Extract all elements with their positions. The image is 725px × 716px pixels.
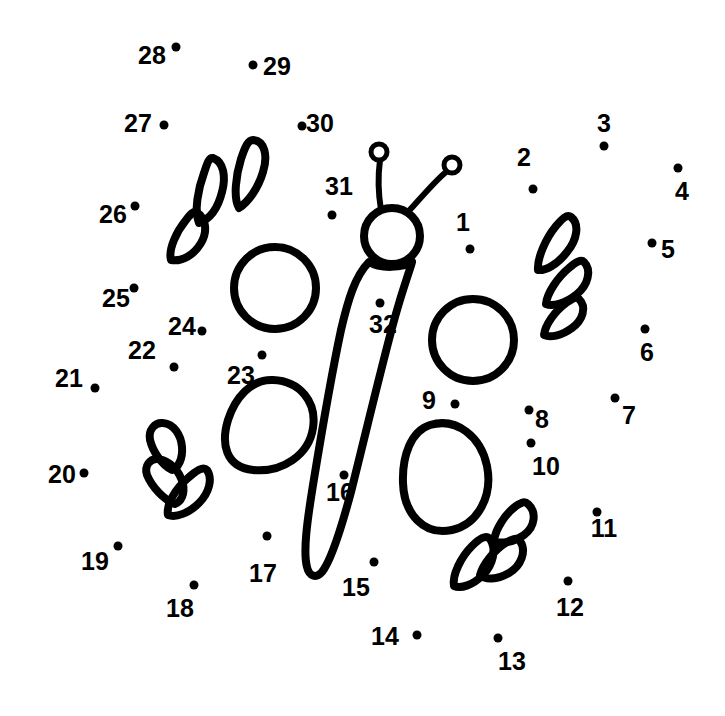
dot-label-4: 4 bbox=[675, 179, 689, 204]
dot-label-22: 22 bbox=[128, 338, 156, 363]
dot-27[interactable] bbox=[160, 121, 169, 130]
dot-label-6: 6 bbox=[640, 340, 654, 365]
dot-label-5: 5 bbox=[661, 237, 675, 262]
dot-6[interactable] bbox=[641, 325, 650, 334]
dot-26[interactable] bbox=[131, 202, 140, 211]
dot-15[interactable] bbox=[370, 558, 379, 567]
dot-18[interactable] bbox=[190, 581, 199, 590]
dot-label-20: 20 bbox=[48, 462, 76, 487]
dot-label-25: 25 bbox=[102, 286, 130, 311]
dot-3[interactable] bbox=[600, 142, 609, 151]
dot-label-13: 13 bbox=[498, 649, 526, 674]
dot-label-1: 1 bbox=[456, 210, 470, 235]
butterfly-artwork bbox=[0, 0, 725, 716]
dot-label-15: 15 bbox=[342, 575, 370, 600]
dot-12[interactable] bbox=[564, 577, 573, 586]
dot-label-31: 31 bbox=[325, 174, 353, 199]
dot-label-32: 32 bbox=[369, 312, 397, 337]
dot-7[interactable] bbox=[611, 394, 620, 403]
dot-2[interactable] bbox=[529, 185, 538, 194]
dot-label-16: 16 bbox=[326, 480, 354, 505]
upper-left-petal-3 bbox=[170, 212, 205, 260]
dot-label-17: 17 bbox=[249, 561, 277, 586]
left-antenna-tip-icon bbox=[371, 144, 387, 160]
dot-25[interactable] bbox=[130, 284, 139, 293]
dot-4[interactable] bbox=[674, 164, 683, 173]
dot-32[interactable] bbox=[376, 299, 385, 308]
butterfly-head bbox=[364, 208, 420, 264]
dot-label-11: 11 bbox=[591, 516, 617, 541]
dot-21[interactable] bbox=[91, 384, 100, 393]
dot-28[interactable] bbox=[172, 43, 181, 52]
right-antenna-tip-icon bbox=[444, 157, 460, 173]
upper-left-petal-1 bbox=[236, 140, 266, 208]
dot-1[interactable] bbox=[466, 245, 475, 254]
dot-label-2: 2 bbox=[517, 145, 531, 170]
dot-19[interactable] bbox=[114, 542, 123, 551]
lower-right-oval-wing bbox=[403, 423, 488, 531]
dot-label-29: 29 bbox=[263, 54, 291, 79]
dot-label-30: 30 bbox=[306, 111, 334, 136]
dot-label-7: 7 bbox=[622, 403, 636, 428]
dot-29[interactable] bbox=[249, 61, 258, 70]
dot-13[interactable] bbox=[494, 634, 503, 643]
dot-label-28: 28 bbox=[138, 43, 166, 68]
dot-8[interactable] bbox=[525, 406, 534, 415]
dot-14[interactable] bbox=[413, 631, 422, 640]
dot-label-18: 18 bbox=[166, 596, 194, 621]
puzzle-canvas: 1234567891011121314151617181920212223242… bbox=[0, 0, 725, 716]
upper-left-circle-wing bbox=[234, 247, 316, 329]
dot-label-8: 8 bbox=[535, 407, 549, 432]
dot-31[interactable] bbox=[328, 211, 337, 220]
dot-17[interactable] bbox=[263, 532, 272, 541]
dot-label-27: 27 bbox=[124, 111, 152, 136]
dot-label-19: 19 bbox=[81, 549, 109, 574]
right-antenna bbox=[408, 172, 446, 212]
lower-left-petal-3 bbox=[168, 469, 210, 516]
lower-left-oval-wing bbox=[225, 380, 314, 470]
dot-label-26: 26 bbox=[99, 202, 127, 227]
dot-label-12: 12 bbox=[556, 595, 584, 620]
dot-24[interactable] bbox=[198, 327, 207, 336]
dot-9[interactable] bbox=[451, 400, 460, 409]
left-antenna bbox=[379, 160, 381, 210]
dot-23[interactable] bbox=[258, 351, 267, 360]
dot-label-21: 21 bbox=[55, 366, 83, 391]
dot-label-24: 24 bbox=[168, 314, 196, 339]
dot-label-3: 3 bbox=[597, 111, 611, 136]
dot-5[interactable] bbox=[648, 239, 657, 248]
dot-20[interactable] bbox=[80, 469, 89, 478]
dot-label-9: 9 bbox=[422, 388, 436, 413]
numbered-dots-layer bbox=[80, 43, 683, 643]
dot-label-23: 23 bbox=[227, 363, 255, 388]
dot-label-10: 10 bbox=[532, 454, 560, 479]
dot-22[interactable] bbox=[170, 363, 179, 372]
dot-10[interactable] bbox=[527, 439, 536, 448]
dot-label-14: 14 bbox=[371, 624, 399, 649]
upper-right-circle-wing bbox=[432, 299, 514, 381]
